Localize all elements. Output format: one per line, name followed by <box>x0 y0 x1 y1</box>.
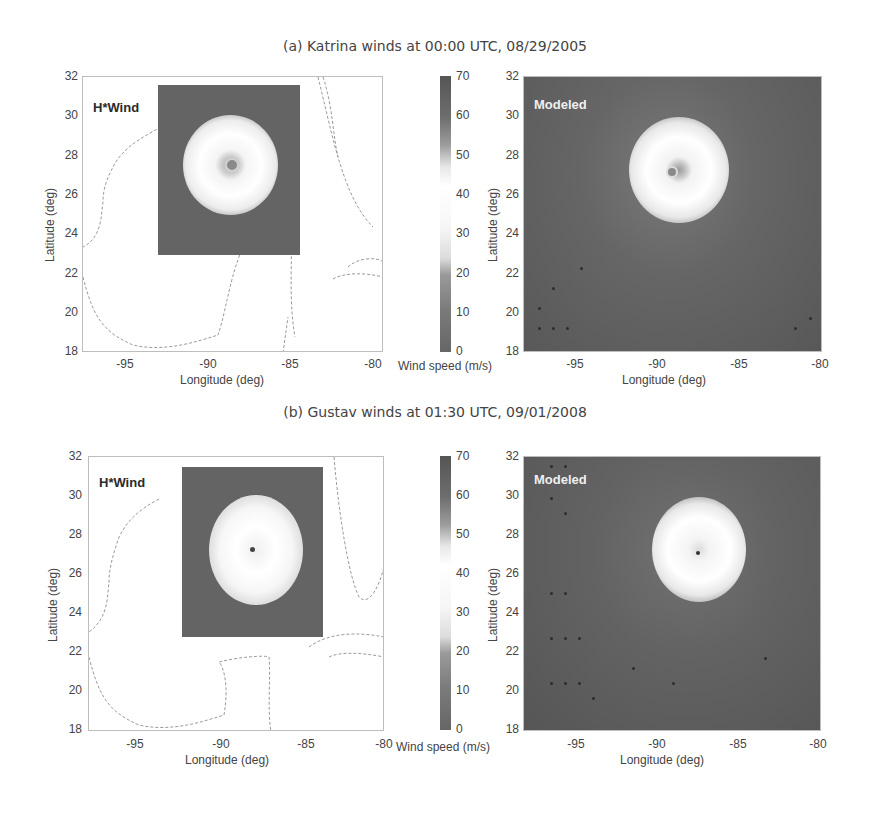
cbtick: 40 <box>456 566 469 580</box>
cbtick: 50 <box>456 148 469 162</box>
ytick: 32 <box>495 449 519 463</box>
cbtick: 60 <box>456 488 469 502</box>
cbtick: 60 <box>456 108 469 122</box>
x-axis-label: Longitude (deg) <box>185 753 269 767</box>
xtick: -80 <box>369 737 399 751</box>
xtick: -95 <box>561 737 591 751</box>
ytick: 28 <box>495 527 519 541</box>
ytick: 30 <box>58 488 82 502</box>
ytick: 24 <box>54 226 78 240</box>
hwind-inset <box>158 85 300 255</box>
xtick: -95 <box>120 737 150 751</box>
xtick: -85 <box>291 737 321 751</box>
panel-a-title: (a) Katrina winds at 00:00 UTC, 08/29/20… <box>0 38 870 54</box>
xtick: -90 <box>206 737 236 751</box>
xtick: -85 <box>724 357 754 371</box>
storm-eye <box>225 158 239 172</box>
vortex-core <box>209 495 303 605</box>
hwind-label: H*Wind <box>99 475 145 490</box>
xtick: -95 <box>110 357 140 371</box>
ytick: 18 <box>58 722 82 736</box>
ytick: 32 <box>495 69 519 83</box>
ytick: 18 <box>495 344 519 358</box>
modeled-label: Modeled <box>534 472 587 487</box>
ytick: 22 <box>58 644 82 658</box>
xtick: -90 <box>193 357 223 371</box>
cbtick: 50 <box>456 527 469 541</box>
ytick: 20 <box>54 305 78 319</box>
ytick: 28 <box>54 148 78 162</box>
storm-eye <box>250 547 255 552</box>
xtick: -80 <box>358 357 388 371</box>
y-axis-label: Latitude (deg) <box>486 568 500 642</box>
ytick: 18 <box>54 344 78 358</box>
katrina-modeled-map: Modeled <box>523 76 822 352</box>
y-axis-label: Latitude (deg) <box>43 188 57 262</box>
gustav-hwind-map: H*Wind <box>88 456 384 731</box>
xtick: -90 <box>642 737 672 751</box>
xtick: -80 <box>805 357 835 371</box>
ytick: 32 <box>54 69 78 83</box>
ytick: 22 <box>495 266 519 280</box>
ytick: 30 <box>495 108 519 122</box>
ytick: 30 <box>495 488 519 502</box>
ytick: 26 <box>58 566 82 580</box>
colorbar <box>440 456 451 730</box>
y-axis-label: Latitude (deg) <box>46 568 60 642</box>
vortex-core <box>652 497 746 602</box>
storm-eye <box>666 166 678 178</box>
ytick: 32 <box>58 449 82 463</box>
ytick: 28 <box>495 148 519 162</box>
xtick: -95 <box>560 357 590 371</box>
cbtick: 40 <box>456 187 469 201</box>
cbtick: 70 <box>456 449 469 463</box>
hwind-inset <box>182 467 323 637</box>
cbtick: 10 <box>456 305 469 319</box>
xtick: -80 <box>803 737 833 751</box>
cbtick: 30 <box>456 605 469 619</box>
gustav-modeled-map: Modeled <box>523 456 821 731</box>
ytick: 28 <box>58 527 82 541</box>
cbtick: 30 <box>456 226 469 240</box>
ytick: 20 <box>495 683 519 697</box>
x-axis-label: Longitude (deg) <box>180 373 264 387</box>
y-axis-label: Latitude (deg) <box>486 188 500 262</box>
cbtick: 70 <box>456 69 469 83</box>
vortex-core <box>629 117 729 223</box>
ytick: 20 <box>58 683 82 697</box>
hwind-label: H*Wind <box>93 100 139 115</box>
colorbar-label: Wind speed (m/s) <box>398 359 492 373</box>
x-axis-label: Longitude (deg) <box>620 753 704 767</box>
cbtick: 0 <box>456 722 463 736</box>
cbtick: 10 <box>456 683 469 697</box>
ytick: 26 <box>54 187 78 201</box>
ytick: 22 <box>54 266 78 280</box>
colorbar <box>440 76 451 352</box>
cbtick: 20 <box>456 644 469 658</box>
xtick: -90 <box>642 357 672 371</box>
cbtick: 0 <box>456 344 463 358</box>
ytick: 30 <box>54 108 78 122</box>
katrina-hwind-map: H*Wind <box>82 76 383 352</box>
ytick: 24 <box>58 605 82 619</box>
ytick: 20 <box>495 305 519 319</box>
panel-b-title: (b) Gustav winds at 01:30 UTC, 09/01/200… <box>0 404 870 420</box>
xtick: -85 <box>275 357 305 371</box>
x-axis-label: Longitude (deg) <box>622 373 706 387</box>
colorbar-label: Wind speed (m/s) <box>396 740 490 754</box>
xtick: -85 <box>723 737 753 751</box>
ytick: 18 <box>495 722 519 736</box>
modeled-label: Modeled <box>534 97 587 112</box>
storm-eye <box>696 551 700 555</box>
ytick: 22 <box>495 644 519 658</box>
cbtick: 20 <box>456 266 469 280</box>
